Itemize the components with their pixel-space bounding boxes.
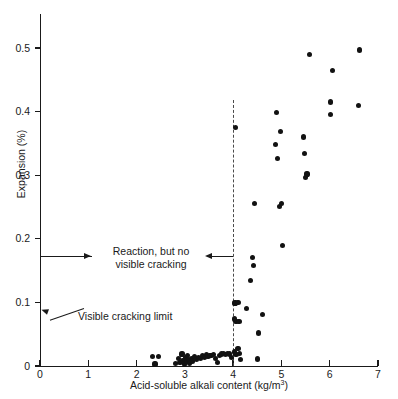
x-axis-title-suffix: )	[284, 379, 288, 391]
x-axis-tick	[377, 360, 378, 366]
data-point	[356, 103, 361, 108]
data-point	[252, 201, 257, 206]
x-axis-tick	[88, 360, 89, 366]
data-point	[279, 201, 284, 206]
data-point	[330, 68, 335, 73]
data-point	[260, 312, 265, 317]
reaction-annotation-line-2: visible cracking	[96, 258, 206, 271]
data-point	[328, 112, 333, 117]
data-point	[233, 125, 238, 130]
data-point	[156, 354, 161, 359]
y-axis-tick	[35, 238, 41, 239]
data-point	[150, 354, 155, 359]
reaction-annotation-left-arrowhead-icon	[84, 253, 91, 259]
x-axis-tick	[136, 360, 137, 366]
y-axis-line	[40, 14, 41, 366]
data-point	[357, 47, 362, 52]
data-point	[274, 110, 279, 115]
data-point	[304, 171, 309, 176]
x-axis-tick	[39, 360, 40, 366]
data-point	[328, 99, 333, 104]
data-point	[248, 278, 253, 283]
data-point	[244, 306, 249, 311]
plot-area: 00.10.20.30.40.5 01234567 Expansion (%) …	[0, 0, 398, 399]
data-point	[251, 263, 256, 268]
data-point	[278, 129, 283, 134]
cracking-limit-arrowhead-icon	[40, 307, 49, 315]
data-point	[302, 151, 307, 156]
x-axis-title: Acid-soluble alkali content (kg/m3)	[40, 379, 378, 391]
y-axis-tick	[35, 47, 41, 48]
data-point	[235, 300, 240, 305]
y-axis-tick-label: 0.2	[0, 232, 30, 244]
y-axis-tick-label: 0.1	[0, 296, 30, 308]
y-axis-tick	[35, 111, 41, 112]
data-point	[237, 351, 242, 356]
data-point	[280, 243, 285, 248]
data-point	[307, 52, 312, 57]
data-point	[273, 142, 278, 147]
reaction-annotation-right-arrowhead-icon	[205, 253, 212, 259]
x-axis-title-main: Acid-soluble alkali content (kg/m	[130, 379, 281, 391]
expansion-vs-alkali-scatter-chart: 00.10.20.30.40.5 01234567 Expansion (%) …	[0, 0, 398, 399]
x-axis-tick	[281, 360, 282, 366]
data-point	[256, 330, 261, 335]
x-axis-tick	[329, 360, 330, 366]
data-point	[215, 360, 220, 365]
x-axis-line	[40, 366, 378, 367]
reaction-annotation-line-1: Reaction, but no	[96, 245, 206, 258]
data-point	[250, 255, 255, 260]
y-axis-tick-label: 0.5	[0, 42, 30, 54]
data-point	[152, 361, 157, 366]
data-point	[275, 156, 280, 161]
y-axis-tick-label: 0	[0, 360, 30, 372]
reaction-annotation-right-leader	[211, 256, 233, 257]
y-axis-title: Expansion (%)	[15, 99, 27, 229]
y-axis-tick	[35, 302, 41, 303]
data-point	[238, 357, 243, 362]
alkali-threshold-dashed-line	[233, 100, 234, 366]
cracking-limit-annotation-text: Visible cracking limit	[78, 310, 172, 323]
data-point	[301, 134, 306, 139]
y-axis-tick	[35, 175, 41, 176]
data-point	[236, 319, 241, 324]
data-point	[255, 356, 260, 361]
reaction-annotation-text: Reaction, but no visible cracking	[96, 245, 206, 270]
